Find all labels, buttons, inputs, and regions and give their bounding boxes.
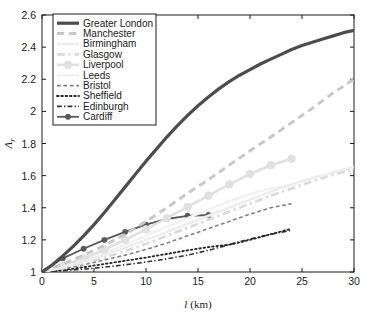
x-tick-label: 10 <box>140 275 152 287</box>
series-marker-liverpool <box>205 192 213 200</box>
series-marker-liverpool <box>246 170 254 178</box>
chart-figure: 05101520253011.21.41.61.822.22.42.6l(km)… <box>0 0 372 313</box>
y-tick-label: 1.8 <box>21 138 36 150</box>
legend-label: Glasgow <box>83 49 123 60</box>
y-tick-label: 2 <box>30 105 36 117</box>
legend-label: Manchester <box>83 28 136 39</box>
legend-swatch-marker <box>64 61 72 69</box>
x-tick-label: 20 <box>244 275 256 287</box>
line-chart: 05101520253011.21.41.61.822.22.42.6l(km)… <box>0 0 372 313</box>
series-marker-liverpool <box>184 203 192 211</box>
series-marker-liverpool <box>163 214 171 222</box>
x-tick-label: 5 <box>91 275 97 287</box>
legend-swatch-marker <box>65 114 70 119</box>
legend-label: Sheffield <box>83 90 122 101</box>
series-marker-cardiff <box>102 237 107 242</box>
y-tick-label: 2.6 <box>21 9 36 21</box>
x-tick-label: 15 <box>192 275 204 287</box>
y-tick-label: 1.2 <box>21 234 36 246</box>
legend-label: Cardiff <box>83 111 112 122</box>
y-tick-label: 2.4 <box>21 41 36 53</box>
series-marker-liverpool <box>267 161 275 169</box>
x-tick-label: 30 <box>348 275 360 287</box>
legend-label: Liverpool <box>83 59 124 70</box>
legend-label: Leeds <box>83 70 110 81</box>
legend-label: Birmingham <box>83 38 136 49</box>
x-tick-label: 25 <box>296 275 308 287</box>
y-tick-label: 1 <box>30 266 36 278</box>
legend-label: Edinburgh <box>83 101 129 112</box>
x-tick-label: 0 <box>39 275 45 287</box>
series-marker-cardiff <box>81 246 86 251</box>
series-marker-liverpool <box>225 181 233 189</box>
series-marker-liverpool <box>288 155 296 163</box>
legend-label: Greater London <box>83 18 153 29</box>
legend-item-liverpool[interactable]: Liverpool <box>57 59 124 70</box>
y-tick-label: 1.4 <box>21 202 36 214</box>
y-axis-title: Λr <box>2 138 17 150</box>
legend-label: Bristol <box>83 80 111 91</box>
y-tick-label: 2.2 <box>21 73 36 85</box>
legend: Greater LondonManchesterBirminghamGlasgo… <box>53 14 156 125</box>
y-tick-label: 1.6 <box>21 170 36 182</box>
series-marker-liverpool <box>142 226 150 234</box>
x-axis-title: l(km) <box>184 298 212 311</box>
